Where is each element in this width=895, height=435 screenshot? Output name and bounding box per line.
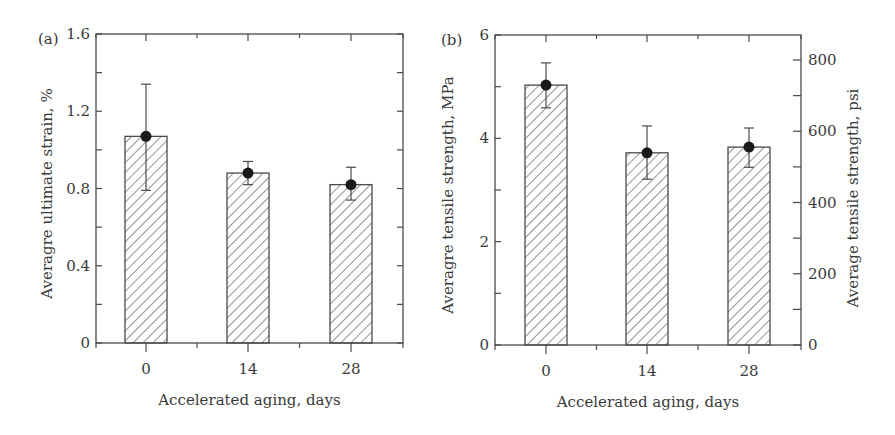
y-tick-label: 0.8 bbox=[66, 180, 90, 198]
y-tick-label: 2 bbox=[479, 233, 489, 251]
panel-b-error-bars bbox=[541, 63, 754, 179]
x-tick-label: 0 bbox=[141, 360, 151, 378]
x-tick-label: 0 bbox=[541, 362, 551, 380]
panel-a-ultimate-strain-chart: (a) 00.40.81.21.6 01428 Accelerated agin… bbox=[38, 25, 403, 409]
y2-tick-label: 0 bbox=[808, 336, 818, 354]
y-tick-label: 4 bbox=[479, 129, 489, 147]
panel-a-error-bars bbox=[141, 84, 356, 200]
panel-a-label: (a) bbox=[38, 30, 59, 48]
mean-marker-14 bbox=[243, 168, 254, 179]
panel-a-x-axis-title: Accelerated aging, days bbox=[157, 391, 340, 409]
x-tick-label: 28 bbox=[341, 360, 360, 378]
y-tick-label: 6 bbox=[479, 26, 489, 44]
mean-marker-28 bbox=[744, 142, 755, 153]
mean-marker-14 bbox=[642, 147, 653, 158]
panel-b-tensile-strength-chart: (b) 0246 0200400600800 01428 Accelerated… bbox=[439, 26, 862, 411]
mean-marker-0 bbox=[141, 131, 152, 142]
x-tick-label: 14 bbox=[637, 362, 656, 380]
bar-28 bbox=[330, 185, 372, 343]
panel-b-y-axis-title: Averagre tensile strength, MPa bbox=[439, 76, 457, 315]
panel-b-secondary-y-axis: 0200400600800 bbox=[793, 51, 837, 354]
bar-14 bbox=[227, 173, 269, 343]
y2-tick-label: 800 bbox=[808, 51, 837, 69]
panel-b-bars bbox=[525, 85, 770, 345]
y-tick-label: 0 bbox=[80, 334, 90, 352]
x-tick-label: 28 bbox=[739, 362, 758, 380]
panel-b-y-axis: 0246 bbox=[479, 26, 501, 354]
y2-tick-label: 400 bbox=[808, 194, 837, 212]
bar-28 bbox=[728, 147, 770, 345]
x-tick-label: 14 bbox=[238, 360, 257, 378]
panel-b-x-axis-title: Accelerated aging, days bbox=[556, 393, 739, 411]
bar-14 bbox=[626, 153, 668, 345]
y-tick-label: 0 bbox=[479, 336, 489, 354]
figure: (a) 00.40.81.21.6 01428 Accelerated agin… bbox=[0, 0, 895, 435]
y2-tick-label: 600 bbox=[808, 122, 837, 140]
panel-a-y-axis-title: Averagre ultimate strain, % bbox=[38, 88, 56, 299]
mean-marker-0 bbox=[541, 80, 552, 91]
panel-b-label: (b) bbox=[441, 31, 462, 49]
y-tick-label: 1.2 bbox=[66, 102, 90, 120]
bar-0 bbox=[525, 85, 567, 345]
y-tick-label: 1.6 bbox=[66, 25, 90, 43]
y2-tick-label: 200 bbox=[808, 265, 837, 283]
panel-b-secondary-y-axis-title: Average tensile strength, psi bbox=[844, 88, 862, 308]
y-tick-label: 0.4 bbox=[66, 257, 90, 275]
mean-marker-28 bbox=[346, 179, 357, 190]
